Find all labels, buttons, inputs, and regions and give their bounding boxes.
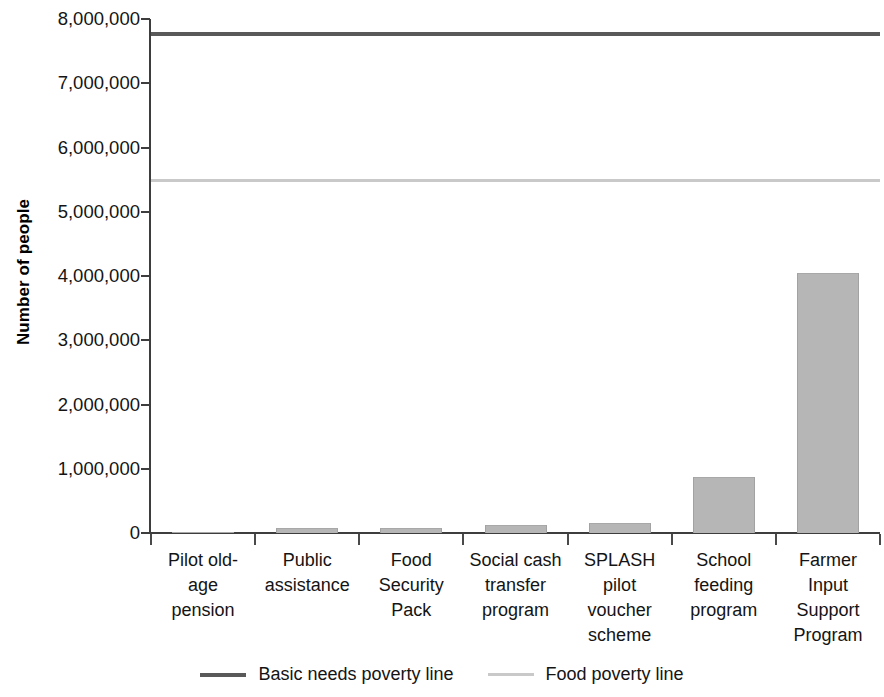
x-axis-tick-mark	[462, 534, 464, 545]
reference-line	[151, 179, 880, 182]
plot-area	[151, 19, 880, 533]
x-axis-category-label: Schoolfeedingprogram	[672, 548, 776, 623]
x-axis-category-label-line: program	[463, 598, 567, 623]
x-axis-category-labels: Pilot old-agepensionPublicassistanceFood…	[151, 548, 880, 648]
x-axis-category-label-line: Input	[776, 573, 880, 598]
y-axis-tick-label: 5,000,000	[20, 203, 140, 222]
x-axis-tick-mark	[775, 534, 777, 545]
x-axis-category-label-line: Farmer	[776, 548, 880, 573]
y-axis-tick-label: 3,000,000	[20, 331, 140, 350]
y-axis-tick-label: 7,000,000	[20, 74, 140, 93]
x-axis-tick-mark	[254, 534, 256, 545]
x-axis-category-label-line: Food	[359, 548, 463, 573]
x-axis-tick-mark	[358, 534, 360, 545]
bar-chart: Number of people 8,000,0007,000,0006,000…	[0, 0, 884, 697]
x-axis-category-label-line: Pack	[359, 598, 463, 623]
x-axis-category-label-line: age	[151, 573, 255, 598]
x-axis-tick-mark	[671, 534, 673, 545]
x-axis-category-label-line: pilot	[568, 573, 672, 598]
y-axis-tick-label: 1,000,000	[20, 460, 140, 479]
legend-item-label: Food poverty line	[546, 664, 684, 685]
x-axis-category-label-line: transfer	[463, 573, 567, 598]
x-axis-category-label: Publicassistance	[255, 548, 359, 598]
x-axis-category-label-line: School	[672, 548, 776, 573]
bar	[589, 523, 651, 533]
x-axis-category-label-line: feeding	[672, 573, 776, 598]
y-axis-tick-label: 6,000,000	[20, 139, 140, 158]
legend-item: Food poverty line	[488, 664, 684, 685]
y-axis-tick-label: 0	[20, 524, 140, 543]
y-axis-tick-label: 2,000,000	[20, 396, 140, 415]
x-axis-category-label-line: Pilot old-	[151, 548, 255, 573]
x-axis-category-label-line: voucher	[568, 598, 672, 623]
x-axis-category-label: SPLASHpilotvoucherscheme	[568, 548, 672, 648]
x-axis-category-label: Social cashtransferprogram	[463, 548, 567, 623]
x-axis-tick-mark	[879, 534, 881, 545]
legend-line-swatch-icon	[200, 673, 246, 677]
x-axis-category-label-line: pension	[151, 598, 255, 623]
x-axis-tick-mark	[567, 534, 569, 545]
bar	[485, 525, 547, 533]
reference-line	[151, 32, 880, 36]
bar	[797, 273, 859, 533]
bar	[276, 528, 338, 533]
y-axis-tick-label: 8,000,000	[20, 10, 140, 29]
x-axis-category-label-line: assistance	[255, 573, 359, 598]
bar	[380, 528, 442, 533]
bar	[693, 477, 755, 533]
x-axis-category-label-line: program	[672, 598, 776, 623]
legend-item: Basic needs poverty line	[200, 664, 453, 685]
x-axis-category-label: Pilot old-agepension	[151, 548, 255, 623]
x-axis-category-label: FarmerInputSupportProgram	[776, 548, 880, 648]
x-axis-category-label-line: Support	[776, 598, 880, 623]
legend-line-swatch-icon	[488, 673, 534, 676]
x-axis-category-label-line: Program	[776, 623, 880, 648]
legend-item-label: Basic needs poverty line	[258, 664, 453, 685]
x-axis-category-label: FoodSecurityPack	[359, 548, 463, 623]
x-axis-category-label-line: scheme	[568, 623, 672, 648]
x-axis-category-label-line: Social cash	[463, 548, 567, 573]
x-axis-tick-mark	[150, 534, 152, 545]
chart-legend: Basic needs poverty lineFood poverty lin…	[0, 664, 884, 685]
x-axis-category-label-line: SPLASH	[568, 548, 672, 573]
y-axis-tick-labels: 8,000,0007,000,0006,000,0005,000,0004,00…	[18, 0, 140, 560]
y-axis-tick-label: 4,000,000	[20, 267, 140, 286]
x-axis-category-label-line: Public	[255, 548, 359, 573]
bar	[172, 532, 234, 533]
x-axis-category-label-line: Security	[359, 573, 463, 598]
